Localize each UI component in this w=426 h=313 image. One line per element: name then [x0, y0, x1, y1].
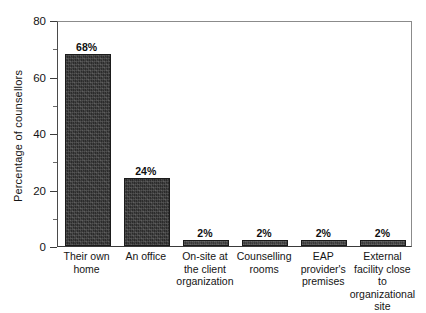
- y-axis-tick-label: 40: [0, 128, 46, 140]
- bar-value-label: 68%: [76, 41, 97, 53]
- y-axis-tick: [50, 134, 57, 135]
- y-axis-tick-label: 20: [0, 185, 46, 197]
- bar: [242, 240, 288, 246]
- y-axis-tick: [50, 21, 57, 22]
- bar-value-label: 24%: [135, 165, 156, 177]
- x-axis-category-label: External facility close to organizationa…: [345, 250, 420, 313]
- bar: [183, 240, 229, 246]
- y-axis-tick-label: 80: [0, 15, 46, 27]
- y-axis-tick-label: 60: [0, 72, 46, 84]
- bar-value-label: 2%: [197, 227, 212, 239]
- y-axis-tick: [50, 191, 57, 192]
- bar: [301, 240, 347, 246]
- bar-value-label: 2%: [316, 227, 331, 239]
- plot-area: [57, 21, 412, 247]
- y-axis-tick-label: 0: [0, 241, 46, 253]
- bar-value-label: 2%: [375, 227, 390, 239]
- bar: [360, 240, 406, 246]
- y-axis-tick: [50, 247, 57, 248]
- y-axis-tick: [50, 78, 57, 79]
- bar-value-label: 2%: [256, 227, 271, 239]
- bar: [124, 178, 170, 246]
- bar: [65, 54, 111, 246]
